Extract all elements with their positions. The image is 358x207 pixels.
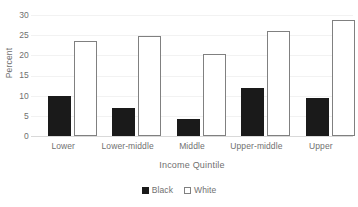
x-label-middle: Middle bbox=[160, 140, 224, 154]
legend-item-black: Black bbox=[142, 186, 173, 195]
bar-white-upper bbox=[332, 20, 355, 136]
legend-item-white: White bbox=[184, 186, 216, 195]
x-label-upper-middle: Upper-middle bbox=[224, 140, 288, 154]
x-label-lower: Lower bbox=[31, 140, 95, 154]
bar-black-upper-middle bbox=[241, 88, 264, 136]
x-axis-title: Income Quintile bbox=[31, 160, 353, 170]
bar-groups bbox=[31, 15, 353, 136]
bar-black-lower-middle bbox=[112, 108, 135, 136]
bar-black-lower bbox=[48, 96, 71, 136]
legend-swatch-white-icon bbox=[184, 187, 191, 194]
bar-black-upper bbox=[306, 98, 329, 136]
bar-white-lower bbox=[74, 41, 97, 136]
legend-label-white: White bbox=[194, 186, 216, 195]
y-tick-0: 0 bbox=[3, 132, 29, 141]
bar-white-upper-middle bbox=[267, 31, 290, 136]
y-tick-5: 5 bbox=[3, 112, 29, 121]
x-label-upper: Upper bbox=[289, 140, 353, 154]
x-label-lower-middle: Lower-middle bbox=[95, 140, 159, 154]
bar-group-middle bbox=[160, 15, 224, 136]
bar-chart: 30 25 20 15 10 5 0 Percent bbox=[0, 0, 358, 207]
legend-swatch-black-icon bbox=[142, 187, 149, 194]
y-axis-title: Percent bbox=[4, 28, 14, 98]
x-axis-labels: Lower Lower-middle Middle Upper-middle U… bbox=[31, 140, 353, 154]
bar-black-middle bbox=[177, 119, 200, 136]
bar-white-lower-middle bbox=[138, 36, 161, 136]
bar-group-upper bbox=[289, 15, 353, 136]
x-axis-line bbox=[31, 136, 353, 137]
legend-label-black: Black bbox=[152, 186, 173, 195]
y-tick-30: 30 bbox=[3, 11, 29, 20]
bar-group-lower bbox=[31, 15, 95, 136]
bar-group-lower-middle bbox=[95, 15, 159, 136]
bar-group-upper-middle bbox=[224, 15, 288, 136]
bar-white-middle bbox=[203, 54, 226, 136]
chart-legend: Black White bbox=[0, 186, 358, 195]
